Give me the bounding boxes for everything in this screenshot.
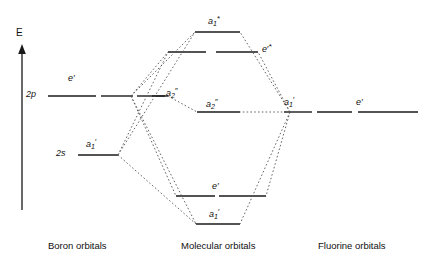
boron-a2-prime-mark: ″ bbox=[175, 86, 178, 95]
molecular-levels bbox=[168, 32, 266, 224]
corr-fluorine-to-e-bonding bbox=[266, 112, 290, 196]
mo-diagram-canvas bbox=[0, 0, 427, 262]
mo-a1-star-mark: * bbox=[217, 14, 220, 23]
mo-e-star-label: e′* bbox=[262, 45, 272, 54]
corr-boron-2p-to-a1-star bbox=[131, 32, 195, 96]
correlation-lines-boron bbox=[118, 32, 197, 224]
mo-a1-prime-label: a1′ bbox=[209, 210, 219, 219]
boron-2s-label: 2s bbox=[56, 149, 66, 158]
mo-a2-double-prime-label: a2″ bbox=[206, 100, 218, 109]
energy-axis bbox=[18, 44, 26, 210]
mo-a2-prime-mark: ″ bbox=[215, 97, 218, 106]
corr-boron-2p-to-a1-bonding bbox=[131, 96, 196, 224]
corr-boron-2s-to-e-star bbox=[118, 52, 168, 155]
correlation-lines-fluorine bbox=[240, 32, 290, 224]
footer-boron-orbitals: Boron orbitals bbox=[48, 241, 107, 251]
boron-a1-prime-label: a1′ bbox=[86, 140, 96, 149]
corr-boron-2s-to-a1-bonding bbox=[118, 155, 196, 224]
corr-boron-2p-to-e-bonding bbox=[131, 96, 176, 196]
boron-levels bbox=[48, 96, 165, 155]
corr-boron-2s-to-a1-star bbox=[118, 32, 195, 155]
mo-diagram: E 2p e′ 2s a1′ a2″ a1* e′* a2″ e′ a1′ a1… bbox=[0, 0, 427, 262]
footer-molecular-orbitals: Molecular orbitals bbox=[181, 241, 255, 251]
mo-a1-star-label: a1* bbox=[208, 17, 220, 26]
footer-fluorine-orbitals: Fluorine orbitals bbox=[318, 241, 386, 251]
energy-axis-label: E bbox=[16, 28, 23, 38]
fluorine-e-prime-label: e′ bbox=[356, 98, 363, 107]
boron-a2-double-prime-label: a2″ bbox=[166, 89, 178, 98]
mo-e-star-mark: * bbox=[269, 42, 272, 51]
boron-2p-label: 2p bbox=[26, 90, 36, 99]
energy-axis-arrowhead bbox=[18, 44, 26, 54]
corr-fluorine-to-a1-bonding bbox=[240, 112, 290, 224]
boron-e-prime-label: e′ bbox=[68, 74, 75, 83]
mo-e-prime-label: e′ bbox=[212, 182, 219, 191]
fluorine-a1-prime-label: a1′ bbox=[284, 98, 294, 107]
